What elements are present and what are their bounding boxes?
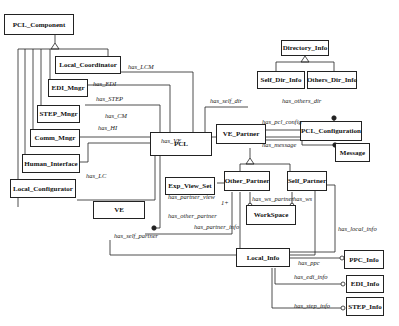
class-self-dir-info: Self_Dir_Info bbox=[257, 71, 305, 89]
label-has-self-partner: has_self_partner bbox=[114, 232, 158, 239]
label-has-step-info: has_step_info bbox=[294, 302, 330, 309]
class-ve: VE bbox=[93, 201, 145, 219]
class-pcl-component: PCL_Component bbox=[4, 14, 74, 35]
label-has-edi-info: has_edi_info bbox=[294, 273, 328, 280]
class-self-partner: Self_Partner bbox=[287, 171, 327, 191]
class-comm-mngr: Comm_Mngr bbox=[30, 129, 80, 147]
class-others-dir-info: Others_Dir_Info bbox=[307, 71, 357, 89]
class-pcl-configuration: PCL_Configuration bbox=[300, 121, 362, 141]
class-edi-mngr: EDI_Mngr bbox=[48, 79, 88, 97]
label-has-other-partner: has_other_partner bbox=[168, 212, 217, 219]
label-has-ws: has_ws bbox=[293, 195, 312, 202]
class-directory-info: Directory_Info bbox=[281, 40, 329, 56]
class-pcl: PCL bbox=[150, 132, 212, 156]
label-has-lcm: has_LCM bbox=[128, 63, 154, 70]
class-local-coordinator: Local_Coordinator bbox=[55, 56, 121, 74]
class-other-partner: Other_Partner bbox=[224, 171, 270, 191]
class-local-info: Local_Info bbox=[236, 248, 290, 267]
class-edi-info: EDI_Info bbox=[346, 275, 384, 293]
label-has-lc: has_LC bbox=[86, 172, 106, 179]
class-human-interface: Human_Interface bbox=[22, 154, 80, 173]
label-has-hi: has_HI bbox=[98, 124, 117, 131]
label-multiplicity: 1+ bbox=[221, 199, 229, 206]
label-has-partner-view: has_partner_view bbox=[168, 193, 215, 200]
label-has-ve: has_VE bbox=[161, 137, 181, 144]
class-workspace: WorkSpace bbox=[246, 205, 296, 225]
label-has-ws-partner: has_ws_partner bbox=[252, 195, 294, 202]
label-has-others-dir: has_others_dir bbox=[282, 97, 321, 104]
label-has-partner-info: has_partner_info bbox=[194, 223, 239, 230]
class-step-info: STEP_Info bbox=[346, 297, 384, 316]
label-has-step: has_STEP bbox=[96, 95, 123, 102]
label-has-cm: has_CM bbox=[105, 112, 127, 119]
label-has-ppc: has_ppc bbox=[298, 259, 320, 266]
label-has-local-info: has_local_info bbox=[338, 225, 377, 232]
label-has-pcl-config: has_pcl_config bbox=[262, 118, 302, 125]
class-message: Message bbox=[335, 143, 370, 162]
class-local-configurator: Local_Configurator bbox=[10, 179, 76, 198]
label-has-message: has_message bbox=[262, 141, 296, 148]
class-ppc-info: PPC_Info bbox=[344, 250, 384, 269]
class-ve-partner: VE_Partner bbox=[216, 124, 266, 144]
class-step-mngr: STEP_Mngr bbox=[37, 105, 80, 123]
label-has-self-dir: has_self_dir bbox=[210, 97, 242, 104]
label-has-edi: has_EDI bbox=[93, 80, 116, 87]
